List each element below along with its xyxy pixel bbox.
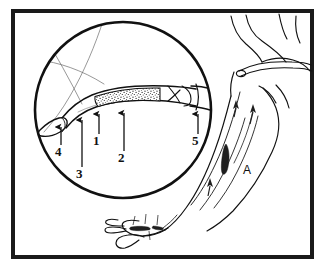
finger-1 bbox=[105, 227, 126, 233]
thumb bbox=[116, 235, 144, 249]
anatomy-figure: 1 2 3 4 5 A bbox=[0, 0, 325, 272]
neck-contour bbox=[231, 16, 262, 62]
label-1: 1 bbox=[93, 134, 100, 147]
anatomy-illustration bbox=[0, 0, 325, 272]
hand-vein-marks bbox=[130, 226, 164, 231]
forearm-line-b bbox=[214, 116, 258, 208]
deltoid-crease bbox=[259, 86, 276, 103]
label-4: 4 bbox=[55, 145, 62, 158]
label-a: A bbox=[243, 164, 251, 176]
label-5: 5 bbox=[192, 134, 199, 147]
flow-arrow-mid-stem bbox=[250, 112, 253, 124]
axilla-fold bbox=[231, 72, 234, 96]
flow-arrow-lower-stem bbox=[208, 186, 210, 196]
label-3: 3 bbox=[76, 167, 83, 180]
label-2: 2 bbox=[118, 151, 125, 164]
upper-chest-line bbox=[279, 14, 287, 39]
clavicle-lower bbox=[241, 68, 312, 76]
trapezius-contour bbox=[246, 15, 286, 62]
forearm-line-c bbox=[234, 110, 253, 163]
deltoid-right bbox=[296, 16, 300, 43]
finger-2 bbox=[106, 219, 124, 226]
upper-arm-outer bbox=[276, 85, 289, 108]
